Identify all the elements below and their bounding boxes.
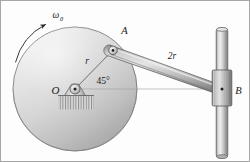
hub-center-dot <box>73 87 76 90</box>
label-radius-r: r <box>85 56 89 66</box>
pin-joint-A <box>109 46 118 55</box>
pin-A-center-dot <box>112 49 115 52</box>
label-omega-symbol: ω <box>53 10 60 20</box>
shaft-bottom-cap <box>217 155 228 159</box>
center-hub <box>70 84 80 94</box>
label-center-O: O <box>52 84 60 96</box>
ground-hatching <box>58 96 94 110</box>
sliding-collar-B <box>212 70 232 106</box>
label-link-2r: 2r <box>168 51 177 61</box>
label-angle-45: 45° <box>97 76 111 86</box>
mechanics-figure: O A B r 2r 45° ω 0 <box>0 0 250 162</box>
shaft-lower-segment <box>216 102 228 158</box>
shaft-top-cap <box>217 28 228 32</box>
pin-B-center-dot <box>221 88 224 91</box>
shaft-upper-segment <box>216 28 228 76</box>
figure-canvas: O A B r 2r 45° ω 0 <box>0 0 250 162</box>
label-point-A: A <box>120 25 128 36</box>
label-point-B: B <box>235 85 242 96</box>
